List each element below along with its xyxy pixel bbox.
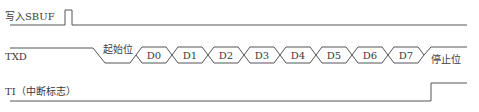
data-bit-d2: D2 xyxy=(219,50,233,61)
data-bit-d6: D6 xyxy=(363,50,377,61)
stop-bit-label: 停止位 xyxy=(431,53,461,65)
data-bit-d7: D7 xyxy=(399,50,413,61)
signal-label-txd: TXD xyxy=(5,51,27,62)
data-bit-d3: D3 xyxy=(255,50,269,61)
data-bit-d5: D5 xyxy=(327,50,341,61)
start-bit-label: 起始位 xyxy=(103,43,133,55)
signal-label-sbuf: 写入SBUF xyxy=(5,11,55,22)
data-bit-d4: D4 xyxy=(291,50,305,61)
ti-waveform xyxy=(10,83,467,101)
sbuf-waveform xyxy=(10,10,467,25)
timing-diagram: 写入SBUF TXD 起始位 D0 D1 D2 D3 D4 D5 D6 D7 停… xyxy=(0,0,479,112)
data-bit-d0: D0 xyxy=(147,50,161,61)
data-bit-d1: D1 xyxy=(183,50,197,61)
signal-label-ti: TI（中断标志） xyxy=(5,85,76,97)
txd-data-cells xyxy=(136,47,424,63)
